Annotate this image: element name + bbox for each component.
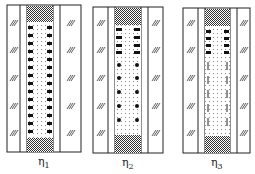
label-eta2: η2 — [122, 156, 134, 171]
panel-eta2 — [93, 7, 163, 153]
label-eta3: η3 — [211, 156, 223, 171]
label-eta1: η1 — [38, 155, 50, 170]
panel-eta3 — [183, 8, 250, 153]
panel-eta1 — [7, 5, 81, 152]
diagram-canvas — [0, 0, 255, 174]
